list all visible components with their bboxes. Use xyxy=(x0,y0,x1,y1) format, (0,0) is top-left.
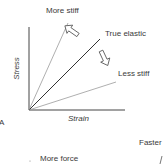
more-force-marker xyxy=(29,160,30,161)
faster-curve-fragment xyxy=(160,156,162,164)
line-more-stiff xyxy=(29,23,68,110)
x-axis-label: Strain xyxy=(68,114,89,123)
hollow-arrow-down-right-icon xyxy=(96,49,112,68)
label-less-stiff: Less stiff xyxy=(118,69,149,78)
label-true-elastic: True elastic xyxy=(105,29,146,38)
label-faster: Faster xyxy=(139,138,162,147)
y-axis-label: Stress xyxy=(12,57,21,80)
line-less-stiff xyxy=(29,82,116,110)
line-true-elastic xyxy=(29,39,100,110)
label-more-stiff: More stiff xyxy=(46,6,79,15)
label-more-force: More force xyxy=(40,154,78,163)
panel-label: A xyxy=(0,118,4,127)
